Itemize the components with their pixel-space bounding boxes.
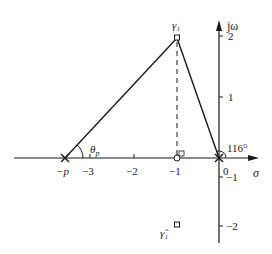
- gamma1-conj-label: γ̂₁: [160, 227, 169, 239]
- imag-axis: jω: [216, 19, 238, 243]
- s-plane-diagram: σ jω −3 −2 −1 0 2 1 −1 −2 θp 116° −p: [0, 0, 272, 254]
- real-tick-label: −2: [126, 165, 138, 177]
- real-tick-label: −1: [169, 165, 181, 177]
- imag-axis-arrow-icon: [216, 20, 222, 31]
- pole-p-label: −p: [56, 165, 69, 177]
- origin-angle-label: 116°: [227, 142, 248, 154]
- imag-tick-label: 2: [228, 30, 234, 42]
- zero-square-marker-icon: [179, 151, 184, 156]
- line-p-to-gamma1: [65, 38, 177, 158]
- gamma1-label: γ₁: [172, 19, 180, 31]
- imag-ticks: [219, 36, 223, 226]
- gamma1-square-icon: [175, 35, 180, 40]
- imag-tick-label: 1: [228, 91, 234, 103]
- theta-p-arc: [77, 145, 83, 158]
- gamma1-conj-square-icon: [175, 222, 180, 227]
- real-axis-label: σ: [253, 166, 260, 180]
- imag-tick-label: −2: [226, 220, 238, 232]
- line-origin-to-gamma1: [177, 38, 219, 158]
- real-axis-arrow-icon: [248, 155, 259, 161]
- imag-tick-label: −1: [226, 171, 238, 183]
- real-tick-label: −3: [82, 165, 94, 177]
- theta-p-label: θp: [90, 143, 99, 158]
